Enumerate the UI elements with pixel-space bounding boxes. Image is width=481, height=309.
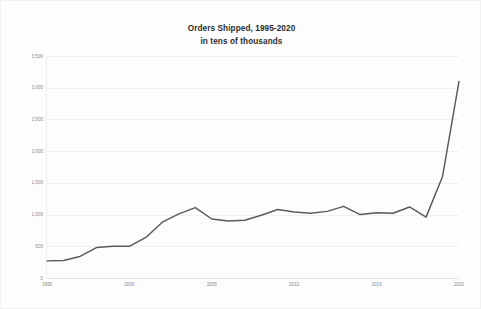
data-line-svg: [1, 1, 481, 309]
orders-shipped-line: [47, 81, 459, 261]
chart-figure: Orders Shipped, 1995-2020 in tens of tho…: [0, 0, 481, 309]
